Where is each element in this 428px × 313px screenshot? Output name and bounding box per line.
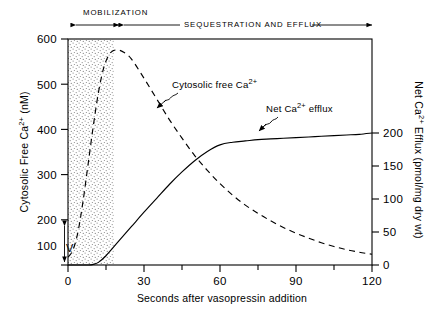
right-tick-150: 150 [383, 160, 403, 172]
left-tick-400: 400 [37, 124, 57, 136]
annotation-net-ca-efflux: Net Ca2+ efflux [259, 101, 333, 131]
right-axis-title-text: Net Ca [413, 81, 425, 115]
annotation-cytosolic-free-ca-label: Cytosolic free Ca2+ [172, 77, 257, 90]
x-tick-60: 60 [213, 275, 226, 287]
chart-svg: MOBILIZATION SEQUESTRATION AND EFFLUX 60… [0, 0, 428, 313]
left-axis-title-units: (nM) [18, 91, 30, 113]
annotation-cytosolic-leader-squiggle [164, 93, 178, 102]
phase-label-mobilization: MOBILIZATION [83, 8, 148, 17]
right-tick-0: 0 [383, 259, 390, 271]
right-axis-title-units: Efflux (pmol/mg dry wt) [413, 127, 425, 239]
left-axis-tick-labels: 600 500 400 300 200 100 [37, 33, 57, 252]
left-tick-600: 600 [37, 33, 57, 45]
right-tick-200: 200 [383, 127, 403, 139]
phase-sequestration-efflux: SEQUESTRATION AND EFFLUX [124, 20, 372, 29]
left-axis-title-text: Cytosolic Free Ca [18, 126, 30, 213]
right-axis-tick-labels: 200 150 100 50 0 [383, 127, 403, 271]
right-tick-50: 50 [383, 226, 396, 238]
annotation-cytosolic-free-ca: Cytosolic free Ca2+ [157, 77, 257, 108]
mobilization-shaded-band [68, 39, 114, 265]
right-axis-ticks [372, 133, 379, 265]
figure-container: MOBILIZATION SEQUESTRATION AND EFFLUX 60… [0, 0, 428, 313]
x-tick-30: 30 [137, 275, 150, 287]
x-tick-90: 90 [289, 275, 302, 287]
left-tick-200: 200 [37, 214, 57, 226]
vasopressin-marker-label: V [66, 242, 74, 254]
svg-text:Cytosolic Free Ca2+ (nM): Cytosolic Free Ca2+ (nM) [17, 91, 30, 212]
right-axis-title-sup: 2+ [417, 115, 426, 124]
x-tick-0: 0 [65, 275, 72, 287]
annotation-efflux-leader-arrow [259, 124, 266, 131]
phase-mobilization: MOBILIZATION [76, 8, 148, 25]
left-axis-title-sup: 2+ [17, 117, 26, 126]
svg-text:Net Ca2+ Efflux (pmol/mg dry w: Net Ca2+ Efflux (pmol/mg dry wt) [413, 81, 426, 239]
annotation-efflux-leader-squiggle [265, 117, 279, 126]
left-axis-title: Cytosolic Free Ca2+ (nM) [17, 91, 30, 212]
x-axis-major-ticks [68, 265, 372, 272]
left-tick-300: 300 [37, 169, 57, 181]
annotation-net-ca-efflux-label: Net Ca2+ efflux [266, 101, 333, 114]
x-tick-120: 120 [362, 275, 382, 287]
left-tick-100: 100 [37, 240, 57, 252]
x-axis-title: Seconds after vasopressin addition [137, 292, 307, 304]
right-tick-100: 100 [383, 193, 403, 205]
left-tick-500: 500 [37, 79, 57, 91]
x-axis-tick-labels: 0 30 60 90 120 [65, 275, 382, 287]
phase-label-sequestration-efflux: SEQUESTRATION AND EFFLUX [184, 20, 322, 29]
right-axis-title: Net Ca2+ Efflux (pmol/mg dry wt) [413, 81, 426, 239]
